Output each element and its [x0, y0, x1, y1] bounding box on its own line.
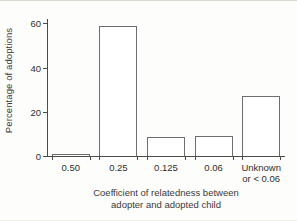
x-tick-label-line1: 0.06	[204, 162, 223, 173]
y-tick-label: 0	[36, 151, 41, 162]
bar[interactable]	[99, 26, 137, 156]
y-tick-label: 40	[30, 62, 41, 73]
x-tick-label-line1: 0.125	[154, 162, 178, 173]
y-tick-label: 20	[30, 106, 41, 117]
bar[interactable]	[195, 136, 233, 156]
y-tick-mark	[43, 68, 47, 69]
x-tick-label: 0.50	[62, 162, 81, 173]
bar[interactable]	[242, 96, 280, 156]
x-axis-title-line1: Coefficient of relatedness between	[93, 187, 239, 198]
y-axis-title-text: Percentage of adoptions	[4, 27, 15, 132]
bar[interactable]	[147, 137, 185, 156]
x-tick-label-line1: 0.50	[62, 162, 81, 173]
x-tick-mark	[195, 156, 196, 160]
x-tick-mark	[185, 156, 186, 160]
y-tick-mark	[43, 23, 47, 24]
x-tick-label: 0.06	[204, 162, 223, 173]
y-tick-mark	[43, 112, 47, 113]
x-tick-mark	[99, 156, 100, 160]
y-tick-group: 0	[47, 156, 48, 157]
x-tick-mark	[233, 156, 234, 160]
x-tick-mark	[280, 156, 281, 160]
x-tick-label: 0.125	[154, 162, 178, 173]
bar[interactable]	[52, 154, 90, 156]
x-tick-mark	[90, 156, 91, 160]
x-tick-label: Unknownor < 0.06	[241, 162, 281, 184]
x-tick-mark	[147, 156, 148, 160]
x-axis-title-line2: adopter and adopted child	[47, 199, 285, 211]
x-tick-label: 0.25	[109, 162, 128, 173]
x-tick-mark	[242, 156, 243, 160]
x-tick-mark	[52, 156, 53, 160]
figure: Percentage of adoptions 02040600.500.250…	[0, 0, 297, 221]
x-axis-title: Coefficient of relatedness between adopt…	[47, 187, 285, 211]
x-tick-label-line2: or < 0.06	[241, 173, 281, 184]
plot-area: 02040600.500.250.1250.06Unknownor < 0.06	[47, 19, 285, 156]
y-tick-mark	[43, 156, 47, 157]
x-tick-label-line1: 0.25	[109, 162, 128, 173]
y-tick-group: 40	[47, 68, 48, 69]
y-tick-group: 20	[47, 112, 48, 113]
y-tick-label: 60	[30, 18, 41, 29]
y-tick-group: 60	[47, 23, 48, 24]
x-axis-spine	[47, 156, 285, 157]
x-tick-mark	[137, 156, 138, 160]
y-axis-title: Percentage of adoptions	[0, 1, 18, 159]
x-tick-label-line1: Unknown	[241, 162, 281, 173]
